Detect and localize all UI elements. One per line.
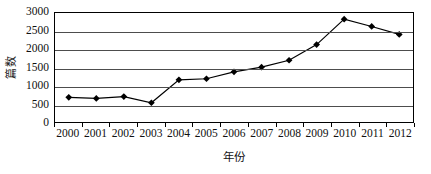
x-axis-tick-label: 2010 bbox=[333, 128, 356, 140]
x-axis-tick-mark bbox=[386, 123, 387, 127]
x-axis-tick-label: 2003 bbox=[139, 128, 162, 140]
gridline bbox=[55, 32, 413, 33]
x-axis-tick-label: 2012 bbox=[389, 128, 412, 140]
x-axis-tick-mark bbox=[137, 123, 138, 127]
y-axis-tick-labels: 050010001500200025003000 bbox=[14, 0, 52, 133]
x-axis-tick-mark bbox=[220, 123, 221, 127]
plot-area bbox=[54, 12, 414, 123]
x-axis-title: 年份 bbox=[54, 148, 414, 164]
x-axis-tick-mark bbox=[109, 123, 110, 127]
data-point-marker bbox=[65, 94, 72, 101]
x-axis-tick-mark bbox=[359, 123, 360, 127]
x-axis-tick-labels: 2000200120022003200420052006200720082009… bbox=[40, 128, 431, 144]
x-axis-tick-label: 2006 bbox=[223, 128, 246, 140]
x-axis-tick-mark bbox=[54, 123, 55, 127]
x-axis-tick-mark bbox=[414, 123, 415, 127]
gridline bbox=[55, 87, 413, 88]
gridline bbox=[55, 50, 413, 51]
x-axis-tick-mark bbox=[331, 123, 332, 127]
x-axis-tick-label: 2007 bbox=[250, 128, 273, 140]
x-axis-tick-label: 2008 bbox=[278, 128, 301, 140]
y-axis-tick-label: 1000 bbox=[26, 80, 49, 92]
gridline bbox=[55, 106, 413, 107]
data-point-marker bbox=[231, 69, 238, 76]
x-axis-tick-mark bbox=[192, 123, 193, 127]
gridline bbox=[55, 69, 413, 70]
x-axis-tick-label: 2000 bbox=[56, 128, 79, 140]
x-axis-tick-mark bbox=[165, 123, 166, 127]
x-axis-tick-mark bbox=[82, 123, 83, 127]
x-axis-tick-label: 2004 bbox=[167, 128, 190, 140]
x-axis-tick-label: 2001 bbox=[84, 128, 107, 140]
y-axis-tick-label: 1500 bbox=[26, 62, 49, 74]
data-point-marker bbox=[120, 93, 127, 100]
x-axis-tick-label: 2002 bbox=[112, 128, 135, 140]
line-chart-figure: 篇数 050010001500200025003000 200020012002… bbox=[0, 0, 431, 174]
y-axis-tick-label: 3000 bbox=[26, 6, 49, 18]
data-point-marker bbox=[93, 95, 100, 102]
x-axis-tick-mark bbox=[276, 123, 277, 127]
y-axis-tick-label: 2500 bbox=[26, 25, 49, 37]
y-axis-tick-label: 500 bbox=[32, 99, 49, 111]
data-point-marker bbox=[368, 23, 375, 30]
x-axis-tick-mark bbox=[248, 123, 249, 127]
data-point-marker bbox=[203, 75, 210, 82]
x-axis-tick-mark bbox=[303, 123, 304, 127]
x-axis-tick-label: 2005 bbox=[195, 128, 218, 140]
x-axis-tick-label: 2009 bbox=[306, 128, 329, 140]
x-axis-tick-label: 2011 bbox=[361, 128, 384, 140]
data-point-marker bbox=[286, 57, 293, 64]
y-axis-tick-label: 2000 bbox=[26, 43, 49, 55]
